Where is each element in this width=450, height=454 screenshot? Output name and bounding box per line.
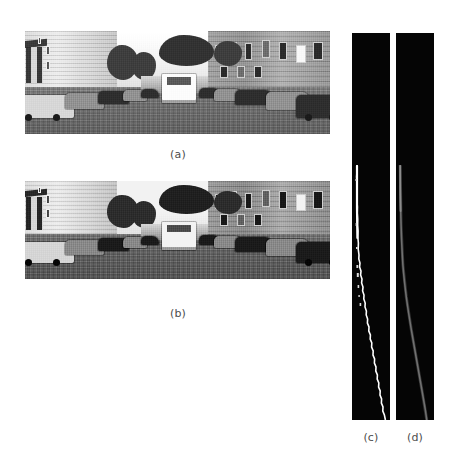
panel-d-svg (396, 33, 434, 420)
tree-canopy (159, 185, 214, 214)
panel-a-image (25, 31, 330, 134)
tree (214, 41, 241, 66)
right-window (313, 191, 323, 208)
panel-d-line-plot (396, 33, 434, 420)
parked-car (141, 236, 159, 245)
right-window (237, 66, 244, 78)
tree-canopy (159, 35, 214, 66)
panel-c-line-plot (352, 33, 390, 420)
parked-car (296, 95, 330, 118)
figure-root: (a) (0, 0, 450, 454)
right-window (279, 191, 288, 208)
panel-b-image (25, 181, 330, 279)
white-van (162, 222, 196, 249)
panel-c-svg (352, 33, 390, 420)
tree (214, 191, 241, 215)
right-window (245, 43, 252, 60)
right-window (220, 66, 227, 78)
caption-a: (a) (148, 148, 208, 161)
van-windshield (167, 225, 191, 232)
right-window (262, 190, 271, 207)
van-windshield (167, 77, 191, 84)
right-window (254, 214, 261, 226)
caption-c: (c) (352, 431, 390, 444)
parked-car (141, 89, 159, 98)
right-window (220, 214, 227, 226)
arcade-columns (26, 47, 43, 83)
parked-car (296, 242, 330, 264)
left-window-upper (38, 187, 41, 193)
wheel (305, 114, 312, 121)
right-window (262, 40, 271, 58)
white-van (162, 74, 196, 103)
left-window-lower (46, 61, 50, 70)
caption-b: (b) (148, 307, 208, 320)
right-window (237, 214, 244, 226)
right-window-lit (296, 194, 306, 211)
caption-d: (d) (396, 431, 434, 444)
left-window-mid (46, 195, 50, 204)
right-window (313, 42, 323, 60)
street-scene-a (25, 31, 330, 134)
wheel (53, 114, 60, 121)
arcade-columns (26, 197, 43, 231)
right-window (279, 42, 288, 60)
left-window-mid (46, 46, 50, 56)
right-window (245, 193, 252, 209)
right-window (254, 66, 261, 78)
left-window-lower (46, 209, 50, 217)
wheel (329, 114, 330, 121)
street-scene-b (25, 181, 330, 279)
left-window-upper (38, 37, 41, 44)
right-window-lit (296, 45, 306, 63)
